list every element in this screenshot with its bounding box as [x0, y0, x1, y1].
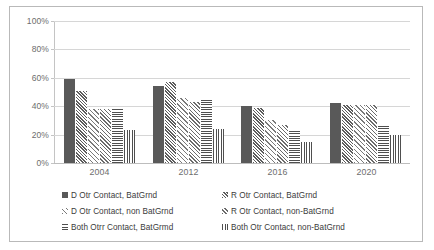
x-axis-tick-labels: 2004201220162020: [55, 167, 411, 181]
legend-row: Both Otrr Contact, BatGrmdBoth Otr Conta…: [62, 219, 407, 235]
bar[interactable]: [112, 109, 123, 163]
legend-swatch-icon: [222, 208, 228, 214]
legend-row: D Otr Contact, BatGrndR Otr Contact, Bat…: [62, 187, 407, 203]
legend-row: D Otr Contact, non BatGrndR Otr Contact,…: [62, 203, 407, 219]
y-axis-label: 60%: [32, 73, 49, 83]
y-axis-label: 0%: [37, 158, 50, 168]
legend-swatch-icon: [62, 192, 68, 198]
y-tick-mark: [51, 135, 54, 136]
bar[interactable]: [354, 105, 365, 163]
bar[interactable]: [177, 98, 188, 163]
y-tick-mark: [51, 21, 54, 22]
bar[interactable]: [253, 108, 264, 163]
bar-group-2016: [233, 21, 322, 163]
bar[interactable]: [366, 105, 377, 163]
bar-group-2004: [55, 21, 144, 163]
legend-item[interactable]: D Otr Contact, non BatGrnd: [62, 203, 222, 219]
bar[interactable]: [265, 120, 276, 163]
legend-swatch-icon: [222, 192, 228, 198]
y-axis-label: 40%: [32, 101, 49, 111]
bar[interactable]: [64, 79, 75, 163]
legend-swatch-icon: [62, 224, 68, 230]
legend-label: Both Otrr Contact, BatGrmd: [71, 223, 173, 232]
bar[interactable]: [277, 125, 288, 163]
bar-groups: [55, 21, 410, 163]
x-axis-label-2016: 2016: [233, 167, 322, 181]
bar[interactable]: [189, 102, 200, 163]
x-axis-label-2020: 2020: [322, 167, 411, 181]
gridline-0pct: [54, 163, 410, 164]
y-axis-label: 20%: [32, 130, 49, 140]
bar[interactable]: [330, 103, 341, 163]
bar[interactable]: [88, 109, 99, 163]
legend-item[interactable]: Both Otr Contact, non-BatGrnd: [222, 219, 400, 235]
plot-area: 0%20%40%60%80%100%: [54, 21, 410, 163]
chart-legend: D Otr Contact, BatGrndR Otr Contact, Bat…: [62, 187, 407, 235]
y-axis-label: 80%: [32, 44, 49, 54]
bar[interactable]: [100, 109, 111, 163]
bar[interactable]: [378, 126, 389, 163]
bar[interactable]: [213, 129, 224, 163]
legend-item[interactable]: R Otr Contact, BatGrnd: [222, 187, 400, 203]
y-tick-mark: [51, 78, 54, 79]
bar[interactable]: [201, 98, 212, 163]
legend-swatch-icon: [62, 208, 68, 214]
legend-label: Both Otr Contact, non-BatGrnd: [231, 223, 345, 232]
bar[interactable]: [390, 135, 401, 163]
x-axis-label-2012: 2012: [144, 167, 233, 181]
y-tick-mark: [51, 49, 54, 50]
bar-group-2012: [144, 21, 233, 163]
legend-item[interactable]: Both Otrr Contact, BatGrmd: [62, 219, 222, 235]
bar[interactable]: [76, 91, 87, 163]
legend-item[interactable]: D Otr Contact, BatGrnd: [62, 187, 222, 203]
y-axis-label: 100%: [27, 16, 49, 26]
bar[interactable]: [342, 105, 353, 163]
bar[interactable]: [289, 129, 300, 163]
legend-item[interactable]: R Otr Contact, non-BatGrnd: [222, 203, 400, 219]
y-tick-mark: [51, 163, 54, 164]
legend-label: R Otr Contact, BatGrnd: [231, 191, 317, 200]
legend-swatch-icon: [222, 224, 228, 230]
bar[interactable]: [124, 130, 135, 163]
bar[interactable]: [241, 106, 252, 163]
legend-label: D Otr Contact, non BatGrnd: [71, 207, 173, 216]
legend-label: R Otr Contact, non-BatGrnd: [231, 207, 334, 216]
legend-label: D Otr Contact, BatGrnd: [71, 191, 157, 200]
bar[interactable]: [301, 142, 312, 163]
bar-group-2020: [321, 21, 410, 163]
chart-frame: 0%20%40%60%80%100% 2004201220162020 D Ot…: [9, 6, 423, 242]
bar[interactable]: [165, 82, 176, 163]
bar[interactable]: [153, 86, 164, 163]
x-axis-label-2004: 2004: [55, 167, 144, 181]
y-tick-mark: [51, 106, 54, 107]
